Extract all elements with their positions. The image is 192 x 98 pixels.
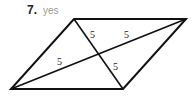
parallelogram-diagram: 5 5 5 5 (0, 0, 192, 98)
label-lower-long: 5 (57, 56, 62, 67)
diagonal-short (74, 19, 123, 89)
label-upper-long: 5 (124, 29, 129, 40)
label-upper-short: 5 (90, 29, 95, 40)
label-lower-short: 5 (113, 61, 118, 72)
